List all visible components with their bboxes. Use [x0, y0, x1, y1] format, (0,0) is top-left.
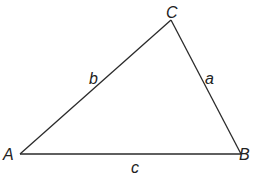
side-label-a: a	[205, 70, 214, 87]
side-b	[20, 20, 171, 154]
vertex-label-a: A	[2, 146, 14, 163]
side-label-c: c	[131, 159, 139, 176]
side-labels: b a c	[89, 70, 214, 176]
side-a	[171, 20, 241, 154]
vertex-label-c: C	[166, 4, 178, 21]
triangle-diagram: C A B b a c	[0, 0, 253, 177]
triangle-sides	[20, 20, 241, 154]
vertex-label-b: B	[239, 146, 250, 163]
side-label-b: b	[89, 70, 98, 87]
